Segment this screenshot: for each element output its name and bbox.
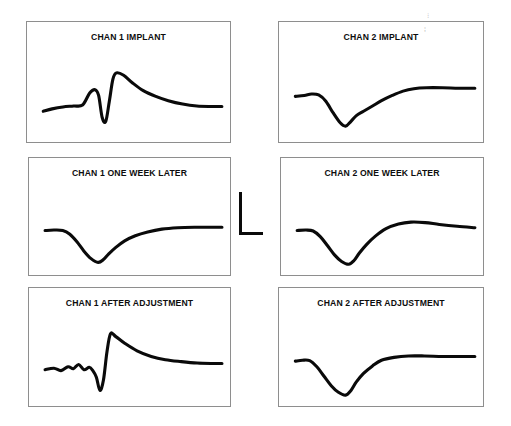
trace-path	[295, 88, 475, 127]
trace-path	[295, 356, 475, 395]
panel-chan-2-implant: CHAN 2 IMPLANT	[278, 21, 484, 143]
panel-chan-1-one-week-later: CHAN 1 ONE WEEK LATER	[28, 157, 231, 276]
scale-bar-vertical-segment	[239, 192, 242, 232]
figure-root: CHAN 1 IMPLANT CHAN 2 IMPLANT CHAN 1 ONE…	[0, 0, 511, 426]
panel-chan-1-after-adjustment: CHAN 1 AFTER ADJUSTMENT	[28, 287, 231, 407]
scale-bar-horizontal-segment	[239, 232, 263, 235]
calibration-scale-bar	[239, 192, 266, 235]
trace-path	[45, 227, 222, 262]
waveform-trace-chan-2-after-adjustment	[279, 288, 483, 406]
scan-artifact-speckle-secondary: ⁞	[424, 26, 426, 33]
trace-path	[297, 222, 475, 264]
trace-path	[43, 73, 222, 123]
waveform-trace-chan-1-implant	[27, 22, 230, 142]
panel-chan-1-implant: CHAN 1 IMPLANT	[26, 21, 231, 143]
waveform-trace-chan-2-one-week-later	[281, 158, 483, 275]
scan-artifact-speckle: ⁝	[427, 12, 429, 19]
trace-path	[45, 333, 222, 391]
panel-chan-2-after-adjustment: CHAN 2 AFTER ADJUSTMENT	[278, 287, 484, 407]
panel-chan-2-one-week-later: CHAN 2 ONE WEEK LATER	[280, 157, 484, 276]
waveform-trace-chan-1-one-week-later	[29, 158, 230, 275]
waveform-trace-chan-2-implant	[279, 22, 483, 142]
waveform-trace-chan-1-after-adjustment	[29, 288, 230, 406]
